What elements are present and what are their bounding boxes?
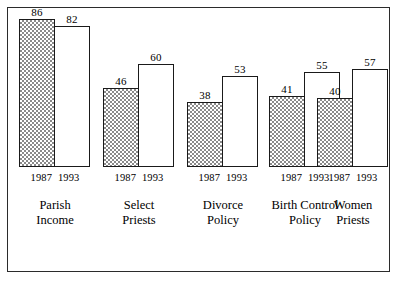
tick-row: 1987 1993 xyxy=(317,171,389,185)
bar-1987: 41 xyxy=(269,96,305,167)
bar-value-label: 53 xyxy=(234,63,245,75)
bar-group-women-priests: 40 57 1987 1993 Women Priests xyxy=(317,7,389,272)
bar-group-parish-income: 86 82 1987 1993 Parish Income xyxy=(19,7,91,272)
bar-1987: 40 xyxy=(317,98,353,167)
bar-1987: 86 xyxy=(19,19,55,167)
category-label-line2: Priests xyxy=(278,213,403,228)
tick-label-1987: 1987 xyxy=(329,171,350,184)
bar-value-label: 41 xyxy=(281,83,292,95)
bar-value-label: 60 xyxy=(150,51,161,63)
category-label-women-priests: Women Priests xyxy=(278,198,403,228)
tick-label-1987: 1987 xyxy=(199,171,220,184)
tick-label-1993: 1993 xyxy=(142,171,163,184)
tick-label-1993: 1993 xyxy=(58,171,79,184)
tick-row: 1987 1993 xyxy=(19,171,91,185)
plot-area: 86 82 1987 1993 Parish Income 46 xyxy=(7,7,390,272)
category-label-line1: Women xyxy=(334,198,373,212)
bar-value-label: 86 xyxy=(31,6,42,18)
bar-1987: 38 xyxy=(187,102,223,167)
tick-row: 1987 1993 xyxy=(187,171,259,185)
bar-group-select-priests: 46 60 1987 1993 Select Priests xyxy=(103,7,175,272)
bar-group-divorce-policy: 38 53 1987 1993 Divorce Policy xyxy=(187,7,259,272)
bar-chart-figure: 86 82 1987 1993 Parish Income 46 xyxy=(0,0,403,288)
bar-1993: 60 xyxy=(138,64,174,167)
bar-value-label: 46 xyxy=(115,75,126,87)
bar-1993: 57 xyxy=(352,69,388,167)
tick-label-1987: 1987 xyxy=(281,171,302,184)
tick-label-1993: 1993 xyxy=(226,171,247,184)
bar-1993: 53 xyxy=(222,76,258,167)
bar-value-label: 40 xyxy=(329,85,340,97)
tick-label-1987: 1987 xyxy=(115,171,136,184)
bar-value-label: 38 xyxy=(199,89,210,101)
bar-value-label: 82 xyxy=(66,13,77,25)
tick-label-1987: 1987 xyxy=(31,171,52,184)
bar-value-label: 57 xyxy=(364,56,375,68)
bar-1993: 82 xyxy=(54,26,90,167)
bar-1987: 46 xyxy=(103,88,139,167)
tick-label-1993: 1993 xyxy=(356,171,377,184)
tick-row: 1987 1993 xyxy=(103,171,175,185)
